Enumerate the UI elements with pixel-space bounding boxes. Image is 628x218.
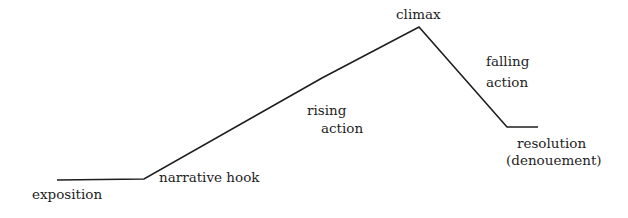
narrative-hook-label: narrative hook	[159, 169, 259, 185]
falling-action-line1: falling	[486, 53, 529, 69]
falling-action-line2: action	[486, 74, 529, 90]
plot-diagram: exposition narrative hook rising action …	[0, 0, 628, 218]
falling-action-label: falling action	[486, 53, 529, 90]
rising-action-line2: action	[321, 120, 363, 136]
exposition-label: exposition	[32, 186, 102, 202]
climax-label: climax	[396, 6, 441, 22]
resolution-label: resolution (denouement)	[517, 135, 602, 168]
resolution-line1: resolution	[517, 135, 602, 151]
rising-action-line1: rising	[307, 102, 363, 118]
rising-action-label: rising action	[307, 102, 363, 136]
resolution-line2: (denouement)	[506, 152, 602, 168]
